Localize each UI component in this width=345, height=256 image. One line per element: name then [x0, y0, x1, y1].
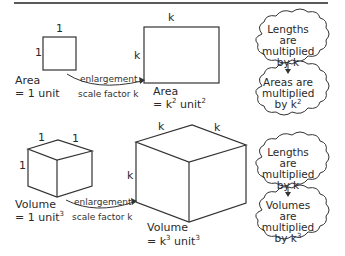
enlargement-label: enlargement: [80, 73, 138, 85]
small-cube-edge-top-right: 1: [72, 133, 79, 145]
small-square: [43, 37, 76, 70]
large-volume-value: = k3 unit3: [147, 236, 200, 248]
scale-factor-label-volume: scale factor k: [72, 211, 133, 223]
large-cube-edge-left: k: [127, 170, 133, 182]
small-area-value: = 1 unit: [15, 88, 60, 100]
cloud-lengths-volume: Lengths aremultipliedby k: [262, 147, 314, 191]
small-volume-value: = 1 unit3: [15, 212, 64, 224]
large-square-top-label: k: [168, 12, 174, 24]
large-cube-edge-top-right: k: [214, 122, 220, 134]
cloud-lengths-area: Lengths aremultipliedby k: [262, 24, 314, 68]
enlargement-label-volume: enlargement: [74, 196, 132, 208]
large-square-left-label: k: [134, 50, 140, 62]
large-cube-edge-top-left: k: [158, 121, 164, 133]
scale-factor-label: scale factor k: [78, 88, 139, 100]
cloud-volumes: Volumes aremultipliedby k3: [259, 200, 317, 244]
large-area-label: Area: [153, 86, 178, 98]
large-cube: [136, 125, 246, 222]
small-square-top-label: 1: [56, 23, 63, 35]
small-volume-label: Volume: [15, 199, 56, 211]
small-area-label: Area: [15, 75, 40, 87]
small-cube-edge-left: 1: [19, 160, 26, 172]
large-square: [144, 27, 219, 83]
cloud-areas: Areas aremultipliedby k2: [262, 77, 314, 110]
small-square-left-label: 1: [35, 47, 42, 59]
large-area-value: = k2 unit2: [153, 99, 206, 111]
small-cube: [28, 140, 92, 197]
large-volume-label: Volume: [147, 222, 188, 234]
small-cube-edge-top-left: 1: [38, 132, 45, 144]
